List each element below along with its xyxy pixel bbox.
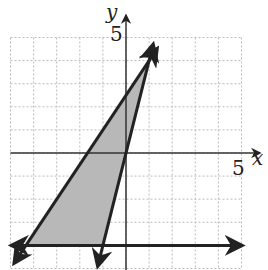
y-tick-label-5: 5 xyxy=(110,22,123,46)
x-tick-label-5: 5 xyxy=(232,156,245,180)
coordinate-plane xyxy=(0,0,268,270)
x-axis-label: x xyxy=(252,146,263,170)
y-axis-label: y xyxy=(106,0,117,24)
